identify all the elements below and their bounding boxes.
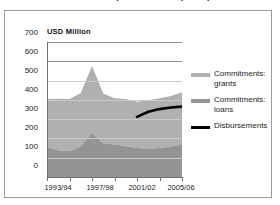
chart-frame: USD Million 700 600 500 400 300 200 100 … bbox=[4, 10, 272, 198]
chart-title-clipped: 1993-2006 (2005 constant prices) bbox=[0, 0, 280, 7]
legend-swatch-grants bbox=[191, 73, 210, 77]
y-tick-label: 700 bbox=[8, 29, 38, 37]
plot-area bbox=[47, 42, 182, 177]
legend-item-disbursements[interactable]: Disbursements bbox=[191, 121, 277, 131]
x-tick-label: 2005/06 bbox=[167, 183, 194, 192]
legend-label-loans-line1: Commitments: bbox=[214, 95, 266, 104]
legend-item-commitments-loans[interactable]: Commitments: loans bbox=[191, 95, 277, 114]
y-tick-label: 600 bbox=[8, 48, 38, 56]
legend-swatch-loans bbox=[191, 99, 210, 103]
x-tick-mark bbox=[137, 177, 138, 181]
x-tick-mark bbox=[92, 177, 93, 181]
y-tick-label: 100 bbox=[8, 143, 38, 151]
y-tick-label: 400 bbox=[8, 86, 38, 94]
y-axis-label: USD Million bbox=[47, 27, 91, 36]
gridline-700 bbox=[47, 42, 182, 43]
x-tick-label: 1997/98 bbox=[86, 183, 113, 192]
legend-label-grants: Commitments: grants bbox=[214, 69, 266, 88]
x-tick-mark bbox=[70, 177, 71, 181]
legend-label-grants-line2: grants bbox=[214, 79, 236, 88]
gridline-200 bbox=[47, 138, 182, 139]
x-tick-mark bbox=[115, 177, 116, 181]
x-tick-mark bbox=[47, 177, 48, 181]
legend-label-disbursements: Disbursements bbox=[214, 121, 267, 131]
legend-label-grants-line1: Commitments: bbox=[214, 69, 266, 78]
gridline-100 bbox=[47, 158, 182, 159]
legend-label-loans: Commitments: loans bbox=[214, 95, 266, 114]
x-tick-label: 1993/94 bbox=[44, 183, 71, 192]
x-tick-mark bbox=[160, 177, 161, 181]
gridline-600 bbox=[47, 61, 182, 62]
y-axis-line bbox=[47, 42, 48, 178]
y-tick-label: 300 bbox=[8, 105, 38, 113]
legend-label-loans-line2: loans bbox=[214, 105, 233, 114]
chart-legend: Commitments: grants Commitments: loans D… bbox=[191, 69, 277, 138]
chart-title-text: 1993-2006 (2005 constant prices) bbox=[70, 0, 211, 1]
x-tick-label: 2001/02 bbox=[128, 183, 155, 192]
y-tick-label: 0 bbox=[8, 162, 38, 170]
gridline-300 bbox=[47, 119, 182, 120]
legend-item-commitments-grants[interactable]: Commitments: grants bbox=[191, 69, 277, 88]
y-tick-label: 200 bbox=[8, 124, 38, 132]
legend-swatch-disbursements bbox=[191, 126, 210, 129]
x-tick-mark bbox=[182, 177, 183, 181]
y-tick-label: 500 bbox=[8, 67, 38, 75]
gridline-500 bbox=[47, 81, 182, 82]
gridline-400 bbox=[47, 100, 182, 101]
